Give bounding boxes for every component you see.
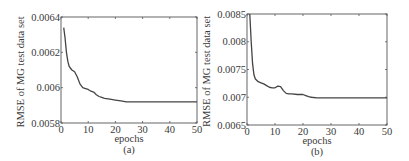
- line-chart-b: 010203040500.00650.0070.00750.0080.0085e…: [0, 0, 409, 161]
- rmse-curve: [250, 14, 387, 98]
- x-tick-label: 40: [354, 126, 365, 137]
- y-tick-label: 0.0075: [217, 64, 246, 75]
- y-tick-label: 0.007: [222, 92, 246, 103]
- x-tick-label: 10: [270, 126, 281, 137]
- y-axis-label: RMSE of MG test data set: [201, 16, 212, 127]
- plot-area-frame: [247, 14, 387, 125]
- chart-panel-b: 010203040500.00650.0070.00750.0080.0085e…: [0, 0, 409, 161]
- x-axis-label: epochs: [302, 135, 331, 146]
- y-tick-label: 0.008: [222, 36, 246, 47]
- x-tick-label: 50: [382, 126, 393, 137]
- y-tick-label: 0.0065: [217, 120, 246, 131]
- y-tick-label: 0.0085: [217, 9, 246, 20]
- panel-label: (b): [311, 146, 324, 158]
